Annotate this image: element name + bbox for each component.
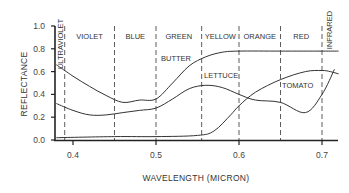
y-tick-label: 0.4	[33, 89, 45, 99]
lettuce-curve	[56, 69, 334, 115]
x-tick-label: 0.6	[233, 150, 245, 160]
x-axis-title: WAVELENGTH (MICRON)	[143, 173, 250, 183]
curve-labels: BUTTER LETTUCE TOMATO	[161, 54, 313, 90]
y-tick-label: 0.2	[33, 112, 45, 122]
y-tick-label: 0.6	[33, 67, 45, 77]
reflectance-chart: ULTRAVIOLETVIOLETBLUEGREENYELLOWORANGERE…	[0, 0, 349, 193]
band-label-violet: VIOLET	[76, 32, 103, 41]
band-label-yellow: YELLOW	[205, 32, 237, 41]
lettuce-label: LETTUCE	[204, 71, 238, 80]
x-ticks: 0.40.50.60.7	[67, 140, 328, 160]
curves	[56, 51, 338, 138]
band-label-green: GREEN	[165, 32, 192, 41]
band-label-ultraviolet: ULTRAVIOLET	[56, 19, 65, 70]
y-ticks: 0.00.20.40.60.81.0	[33, 21, 55, 145]
butter-curve	[56, 51, 338, 103]
x-tick-label: 0.5	[150, 150, 162, 160]
band-label-infrared: INFRARED	[325, 10, 334, 49]
y-axis-title: REFLECTANCE	[19, 51, 29, 116]
y-tick-label: 0.0	[33, 135, 45, 145]
butter-label: BUTTER	[161, 54, 192, 63]
band-label-blue: BLUE	[125, 32, 145, 41]
y-tick-label: 1.0	[33, 21, 45, 31]
x-tick-label: 0.7	[316, 150, 328, 160]
tomato-label: TOMATO	[282, 81, 313, 90]
y-tick-label: 0.8	[33, 44, 45, 54]
band-label-red: RED	[293, 32, 309, 41]
x-tick-label: 0.4	[67, 150, 79, 160]
band-label-orange: ORANGE	[243, 32, 276, 41]
